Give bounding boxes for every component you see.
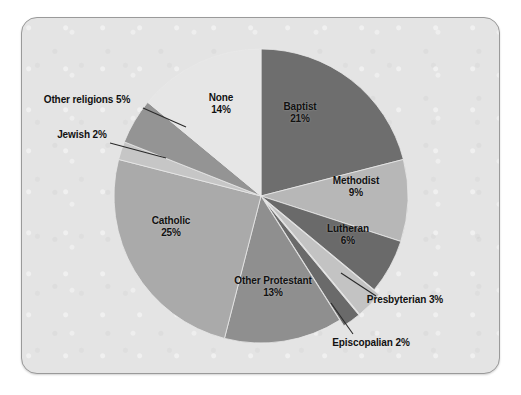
callout-label-presbyterian-value: 3% — [429, 294, 443, 305]
slice-label-methodist-value: 9% — [333, 186, 379, 198]
callout-label-jewish-name: Jewish — [57, 129, 90, 140]
slice-label-catholic: Catholic 25% — [152, 215, 191, 238]
slice-label-other-protestant-value: 13% — [234, 286, 311, 298]
slice-label-methodist-name: Methodist — [333, 175, 379, 186]
slice-label-catholic-value: 25% — [152, 226, 191, 238]
slice-label-none-name: None — [209, 92, 234, 103]
callout-label-presbyterian: Presbyterian 3% — [367, 294, 443, 306]
slice-label-catholic-name: Catholic — [152, 215, 191, 226]
callout-label-episcopalian-value: 2% — [395, 337, 409, 348]
slice-label-methodist: Methodist 9% — [333, 175, 379, 198]
callout-label-other-religions: Other religions 5% — [44, 94, 131, 106]
slice-label-lutheran: Lutheran 6% — [327, 223, 369, 246]
callout-label-other-religions-value: 5% — [116, 94, 130, 105]
callout-label-jewish: Jewish 2% — [57, 129, 107, 141]
callout-label-episcopalian: Episcopalian 2% — [332, 337, 409, 349]
slice-label-none: None 14% — [209, 92, 234, 115]
slice-label-baptist-value: 21% — [283, 112, 316, 124]
figure-root: Baptist 21% Methodist 9% Lutheran 6% Oth… — [0, 0, 521, 395]
callout-label-presbyterian-name: Presbyterian — [367, 294, 426, 305]
slice-label-lutheran-name: Lutheran — [327, 223, 369, 234]
slice-label-none-value: 14% — [209, 103, 234, 115]
slice-label-other-protestant: Other Protestant 13% — [234, 275, 311, 298]
callout-label-other-religions-name: Other religions — [44, 94, 114, 105]
slice-label-baptist: Baptist 21% — [283, 101, 316, 124]
pie-chart — [0, 0, 521, 395]
callout-label-jewish-value: 2% — [93, 129, 107, 140]
slice-label-lutheran-value: 6% — [327, 234, 369, 246]
callout-label-episcopalian-name: Episcopalian — [332, 337, 393, 348]
slice-label-other-protestant-name: Other Protestant — [234, 275, 311, 286]
slice-label-baptist-name: Baptist — [283, 101, 316, 112]
